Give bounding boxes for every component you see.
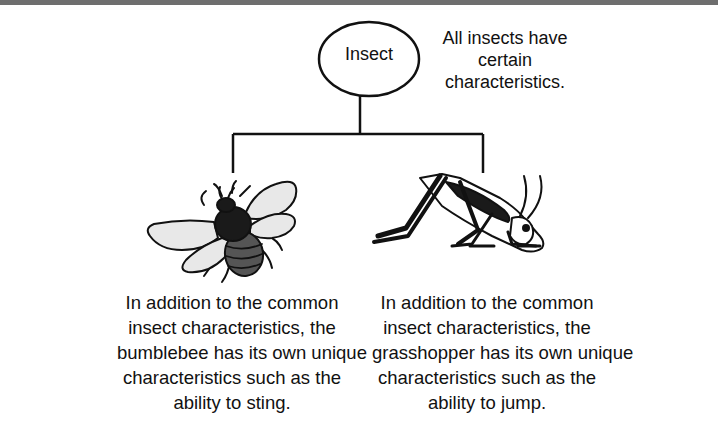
caption-line: characteristics such as the	[372, 365, 602, 390]
grasshopper-caption: In addition to the common insect charact…	[372, 290, 602, 415]
root-node-label: Insect	[318, 44, 420, 64]
caption-line: insect characteristics, the	[117, 315, 347, 340]
caption-line: ability to jump.	[372, 390, 602, 415]
caption-line: bumblebee has its own unique	[117, 340, 347, 365]
caption-line: In addition to the common	[372, 290, 602, 315]
caption-line: characteristics such as the	[117, 365, 347, 390]
diagram-canvas	[0, 0, 718, 446]
caption-line: insect characteristics, the	[372, 315, 602, 340]
connector-lines	[233, 96, 483, 173]
bumblebee-icon	[148, 181, 297, 282]
bumblebee-caption: In addition to the common insect charact…	[117, 290, 347, 415]
root-note-line: All insects have	[430, 27, 580, 49]
caption-line: In addition to the common	[117, 290, 347, 315]
grasshopper-icon	[374, 174, 543, 252]
root-note-line: certain characteristics.	[430, 49, 580, 93]
caption-line: grasshopper has its own unique	[372, 340, 602, 365]
root-note: All insects have certain characteristics…	[430, 27, 580, 93]
caption-line: ability to sting.	[117, 390, 347, 415]
